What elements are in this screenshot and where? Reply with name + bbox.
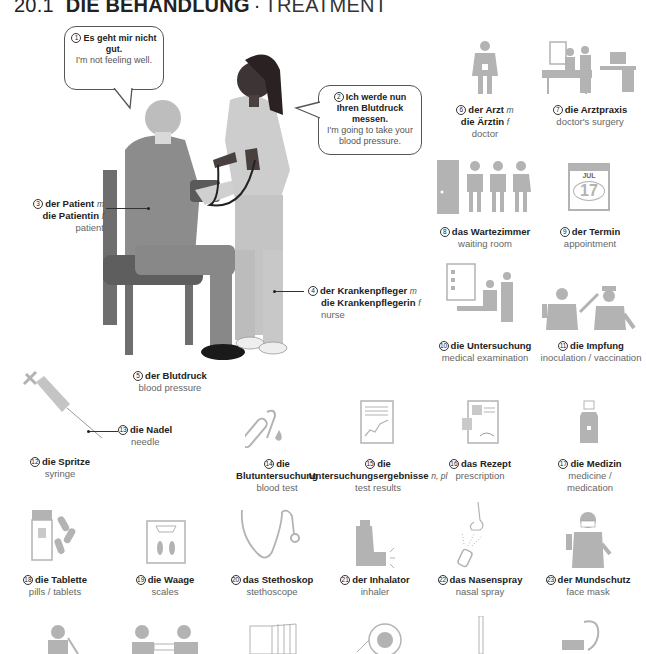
label-inhaler: 21der Inhalator inhaler	[330, 574, 420, 598]
number-badge: 1	[71, 33, 81, 43]
patient-nurse-illustration	[95, 40, 295, 370]
calendar-icon: JUL 17	[568, 163, 610, 211]
calendar-day: 17	[573, 181, 605, 201]
label-scales: 19die Waage scales	[125, 574, 205, 598]
label-syringe: 12die Spritze syringe	[20, 456, 100, 480]
label-stethoscope: 20das Stethoskop stethoscope	[222, 574, 322, 598]
waiting-room-icon	[435, 158, 535, 216]
label-test-results: 15die Untersuchungsergebnisse n, pl test…	[308, 458, 448, 494]
label-doctor: 6der Arzt m die Ärztin f doctor	[435, 104, 535, 140]
medicine-bottle-icon	[578, 400, 600, 444]
leader-line	[274, 291, 304, 292]
speech-bubble-tail-icon	[294, 100, 322, 124]
label-doctors-surgery: 7die Arztpraxis doctor's surgery	[540, 104, 640, 128]
leader-dot	[273, 290, 276, 293]
title-english: TREATMENT	[265, 0, 388, 16]
calendar-month: JUL	[570, 172, 608, 179]
prescription-icon	[460, 400, 500, 444]
label-medical-examination: 10die Untersuchung medical examination	[430, 340, 540, 364]
label-nurse: 4der Krankenpfleger m die Krankenpfleger…	[308, 285, 448, 321]
leader-line	[106, 208, 148, 209]
partial-two-people-icon	[128, 624, 204, 654]
medical-examination-icon	[445, 262, 521, 324]
vaccination-icon	[540, 284, 636, 332]
label-medicine: 17die Medizin medicine / medication	[540, 458, 640, 494]
stethoscope-icon	[238, 506, 302, 566]
doctors-surgery-icon	[540, 40, 638, 98]
blood-test-icon	[245, 408, 289, 448]
number-badge: 2	[334, 92, 344, 102]
label-appointment: 9der Termin appointment	[540, 226, 640, 250]
title-german: DIE BEHANDLUNG	[66, 0, 250, 16]
leader-dot	[87, 430, 90, 433]
label-needle: 13die Nadel needle	[118, 424, 178, 448]
partial-thermometer-icon	[476, 616, 486, 654]
pills-icon	[30, 508, 86, 564]
partial-person-icon	[40, 624, 80, 654]
partial-bandage-roll-icon	[248, 620, 298, 654]
scales-icon	[146, 520, 186, 564]
doctor-icon	[468, 40, 502, 96]
label-patient: 3der Patient m die Patientin f patient	[4, 198, 104, 234]
section-number: 20.1	[14, 0, 54, 16]
label-waiting-room: 8das Wartezimmer waiting room	[430, 226, 540, 250]
partial-ear-exam-icon	[560, 616, 610, 654]
label-blood-pressure: 5der Blutdruck blood pressure	[110, 370, 230, 394]
title-separator: ·	[254, 0, 261, 16]
test-results-icon	[360, 400, 394, 444]
leader-dot	[147, 207, 150, 210]
syringe-icon	[22, 370, 102, 440]
label-pills: 18die Tablette pills / tablets	[10, 574, 100, 598]
partial-tape-roll-icon	[355, 618, 405, 654]
nasal-spray-icon	[450, 500, 506, 570]
speech-bubble-nurse: 2Ich werde nun Ihren Blutdruck messen. I…	[318, 85, 422, 155]
label-nasal-spray: 22das Nasenspray nasal spray	[430, 574, 530, 598]
label-face-mask: 23der Mundschutz face mask	[536, 574, 640, 598]
inhaler-icon	[352, 518, 396, 570]
label-prescription: 16das Rezept prescription	[440, 458, 520, 482]
label-vaccination: 11die Impfung inoculation / vaccination	[536, 340, 646, 364]
face-mask-icon	[564, 510, 612, 570]
page-title: 20.1DIE BEHANDLUNG·TREATMENT	[14, 0, 387, 17]
leader-line	[88, 431, 118, 432]
